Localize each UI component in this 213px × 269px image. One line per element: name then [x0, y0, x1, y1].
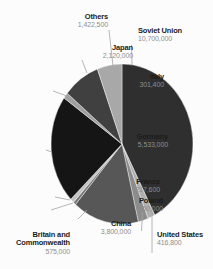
- leader-line-italy: [53, 91, 67, 96]
- slice-label-britain: Britain and Commonwealth575,000: [12, 231, 70, 256]
- slice-value: 217,600: [135, 186, 160, 194]
- slice-value: 5,533,000: [137, 141, 168, 149]
- slice-name: China: [101, 220, 131, 228]
- slice-name: Japan: [103, 44, 133, 52]
- leader-line-china: [78, 210, 87, 219]
- leader-line-poland: [51, 203, 73, 210]
- slice-label-italy: Italy301,400: [139, 73, 164, 89]
- slice-value: 3,800,000: [101, 228, 131, 236]
- slice-value: 2,120,000: [103, 52, 133, 60]
- slice-value: 416,800: [157, 239, 203, 247]
- slice-label-poland: Poland160,000: [138, 197, 163, 213]
- slice-value: 1,422,500: [78, 21, 108, 29]
- slice-label-france: France217,600: [135, 178, 160, 194]
- slice-value: 10,700,000: [138, 35, 182, 43]
- slice-name: Others: [78, 13, 108, 21]
- slice-label-soviet-union: Soviet Union10,700,000: [138, 27, 182, 43]
- leader-line-japan: [82, 60, 87, 73]
- slice-name: Germany: [137, 133, 168, 141]
- slice-name: Poland: [138, 197, 163, 205]
- slice-value: 160,000: [138, 205, 163, 213]
- slice-value: 301,400: [139, 81, 164, 89]
- slice-value: 575,000: [12, 248, 70, 256]
- slice-label-germany: Germany5,533,000: [137, 133, 168, 149]
- leader-line-france: [55, 197, 70, 200]
- slice-name: Britain and Commonwealth: [12, 231, 70, 248]
- slice-name: United States: [157, 231, 203, 239]
- slice-label-united-states: United States416,800: [157, 231, 203, 247]
- slice-name: France: [135, 178, 160, 186]
- slice-name: Italy: [139, 73, 164, 81]
- pie-chart-figure: Soviet Union10,700,000United States416,8…: [0, 0, 213, 269]
- slice-label-others: Others1,422,500: [78, 13, 108, 29]
- slice-name: Soviet Union: [138, 27, 182, 35]
- slice-label-china: China3,800,000: [101, 220, 131, 236]
- slice-label-japan: Japan2,120,000: [103, 44, 133, 60]
